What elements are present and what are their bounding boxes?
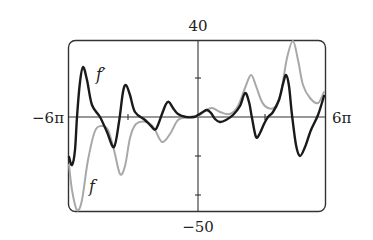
- y-max-label: 40: [188, 17, 207, 35]
- y-min-label: −50: [182, 218, 214, 236]
- x-min-label: −6π: [32, 109, 64, 127]
- curve-f: [69, 41, 324, 210]
- f-curve-label: f: [88, 177, 98, 196]
- curve-f-prime: [69, 67, 324, 165]
- x-max-label: 6π: [332, 109, 352, 127]
- chart-figure: 40 −50 −6π 6π f′ f: [0, 0, 373, 240]
- plot-frame: [69, 41, 326, 212]
- f-prime-curve-label: f′: [95, 65, 106, 84]
